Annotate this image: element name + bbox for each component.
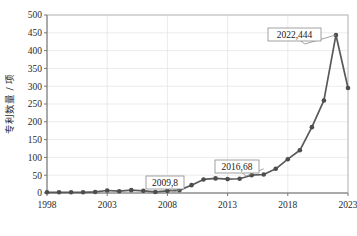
y-axis-tick-label: 50 — [33, 171, 43, 181]
data-point-marker — [286, 157, 291, 162]
chart-canvas: 0501001502002503003504004505001998200320… — [0, 0, 357, 236]
annotation-label: 2009,8 — [152, 178, 178, 188]
data-point-marker — [213, 176, 218, 181]
y-axis-tick-label: 200 — [28, 117, 43, 127]
data-point-marker — [237, 176, 242, 181]
y-axis-tick-label: 350 — [28, 64, 43, 74]
y-axis-tick-label: 150 — [28, 135, 43, 145]
data-point-marker — [81, 190, 86, 195]
annotation-label: 2016,68 — [222, 162, 253, 172]
x-axis-tick-label: 2018 — [278, 200, 297, 210]
data-point-marker — [322, 98, 327, 103]
data-point-marker — [141, 189, 146, 194]
data-point-marker — [261, 172, 266, 177]
data-point-marker — [105, 188, 110, 193]
y-axis-tick-label: 0 — [37, 188, 42, 198]
data-point-marker — [57, 190, 62, 195]
data-point-marker — [310, 125, 315, 130]
data-point-marker — [189, 183, 194, 188]
x-axis-tick-label: 2023 — [339, 200, 357, 210]
patent-count-line-chart: 0501001502002503003504004505001998200320… — [0, 0, 357, 236]
y-axis-tick-label: 500 — [28, 10, 43, 20]
y-axis-tick-label: 450 — [28, 28, 43, 38]
data-point-marker — [69, 190, 74, 195]
data-point-marker — [201, 177, 206, 182]
data-point-marker — [346, 86, 351, 91]
x-axis-tick-label: 1998 — [38, 200, 57, 210]
data-point-marker — [334, 33, 339, 38]
data-point-marker — [93, 190, 98, 195]
data-point-marker — [153, 190, 158, 195]
y-axis-tick-label: 250 — [28, 99, 43, 109]
y-axis-tick-label: 100 — [28, 153, 43, 163]
y-axis-title: 专利数量 / 项 — [4, 74, 15, 133]
data-point-marker — [45, 190, 50, 195]
annotation-label: 2022,444 — [277, 30, 313, 40]
data-point-marker — [117, 189, 122, 194]
y-axis-tick-label: 300 — [28, 82, 43, 92]
data-point-marker — [225, 177, 230, 182]
data-point-marker — [129, 188, 134, 193]
y-axis-tick-label: 400 — [28, 46, 43, 56]
series-line-patent-count — [47, 35, 348, 192]
data-point-marker — [273, 166, 278, 171]
x-axis-tick-label: 2003 — [98, 200, 117, 210]
data-point-marker — [298, 148, 303, 153]
x-axis-tick-label: 2008 — [158, 200, 177, 210]
x-axis-tick-label: 2013 — [218, 200, 237, 210]
